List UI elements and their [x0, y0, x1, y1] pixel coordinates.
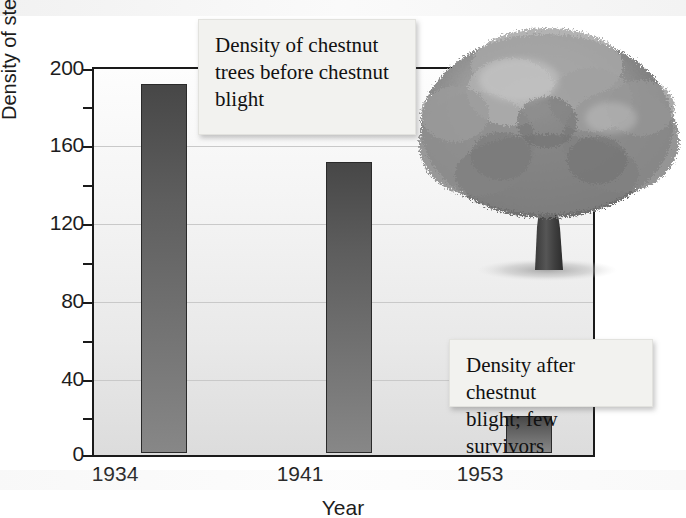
callout-before-line2: trees before chestnut: [215, 59, 401, 86]
x-axis-title: Year: [0, 496, 686, 518]
bar-1941[interactable]: [326, 162, 372, 453]
callout-before-line1: Density of chestnut: [215, 32, 401, 59]
scan-artifact-top: [0, 0, 686, 16]
ytick-40: [83, 380, 92, 382]
ytick-minor-180: [83, 107, 92, 109]
ytick-120: [83, 224, 92, 226]
ytick-minor-100: [83, 263, 92, 265]
ytick-minor-140: [83, 185, 92, 187]
y-axis-title: Density of stems per hectare: [0, 0, 21, 120]
callout-before-line3: blight: [215, 86, 401, 113]
chart-figure: 200 160 120 80 40 0 Density of stems per…: [0, 0, 686, 518]
ytick-80: [83, 302, 92, 304]
ytick-200: [83, 69, 92, 71]
callout-before-blight: Density of chestnut trees before chestnu…: [198, 19, 416, 135]
ytick-label-200: 200: [14, 56, 84, 80]
callout-after-line1: Density after chestnut: [466, 352, 638, 406]
ytick-160: [83, 146, 92, 148]
callout-after-line2: blight; few survivors: [466, 406, 638, 460]
ytick-label-80: 80: [14, 289, 84, 313]
scan-artifact-bottom: [0, 470, 686, 490]
ytick-0: [83, 455, 92, 457]
callout-after-blight: Density after chestnut blight; few survi…: [449, 339, 653, 407]
ytick-label-160: 160: [14, 133, 84, 157]
ytick-minor-60: [83, 341, 92, 343]
ytick-label-120: 120: [14, 211, 84, 235]
bar-1934[interactable]: [141, 84, 187, 453]
ytick-minor-20: [83, 418, 92, 420]
ytick-label-40: 40: [14, 367, 84, 391]
